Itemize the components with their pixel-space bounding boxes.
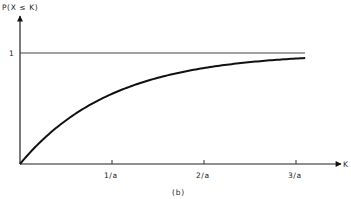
x-axis-label: K xyxy=(343,160,349,169)
x-tick-label-1: 1/a xyxy=(104,171,118,180)
y-tick-label-1: 1 xyxy=(9,49,14,58)
cdf-chart: P(X ≤ K) 1 K 1/a 2/a 3/a (b) xyxy=(0,0,351,199)
figure-caption: (b) xyxy=(172,188,185,197)
x-tick-label-2: 2/a xyxy=(196,171,210,180)
x-tick-label-3: 3/a xyxy=(288,171,302,180)
cdf-curve xyxy=(20,58,305,164)
y-axis-label: P(X ≤ K) xyxy=(2,3,38,12)
